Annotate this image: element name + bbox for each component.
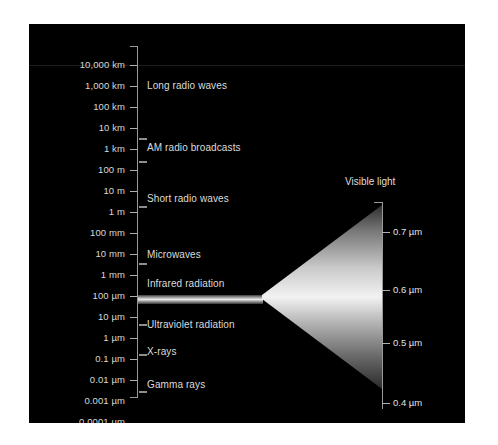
scale-tick [130,128,137,129]
scale-tick [130,275,137,276]
band-boundary-tick [139,206,147,208]
scale-label-0001um: 0.001 µm [29,396,125,406]
band-boundary-tick [139,138,147,140]
band-label-am-radio-broadcasts: AM radio broadcasts [147,143,241,153]
scale-label-1mm: 1 mm [29,270,125,280]
scale-tick [130,296,137,297]
scale-label-100um: 100 µm [29,291,125,301]
scale-tick [130,149,137,150]
scale-label-10m: 10 m [29,186,125,196]
visible-tick [382,403,390,404]
band-label-ultraviolet-radiation: Ultraviolet radiation [147,320,235,330]
visible-tick [382,343,390,344]
scale-tick [130,380,137,381]
band-boundary-tick [139,391,147,393]
scale-label-100m: 100 m [29,165,125,175]
band-label-microwaves: Microwaves [147,250,201,260]
scale-label-100mm: 100 mm [29,228,125,238]
scale-label-10mm: 10 mm [29,249,125,259]
scale-tick [130,233,137,234]
scale-tick [130,65,137,66]
visible-light-title: Visible light [345,177,395,187]
scale-label-1000km: 1,000 km [29,81,125,91]
scale-label-1m: 1 m [29,207,125,217]
scale-label-1km: 1 km [29,144,125,154]
scale-label-001um: 0.01 µm [29,375,125,385]
scale-tick [130,359,137,360]
visible-tick [382,232,390,233]
scale-label-10um: 10 µm [29,312,125,322]
scale-label-01um: 0.1 µm [29,354,125,364]
band-label-long-radio-waves: Long radio waves [147,81,227,91]
visible-light-fan [262,205,382,389]
band-label-infrared-radiation: Infrared radiation [147,279,224,289]
scale-tick [130,170,137,171]
wavelength-axis-line [137,46,138,397]
scale-tick [130,212,137,213]
scale-tick [130,338,137,339]
scale-label-1um: 1 µm [29,333,125,343]
band-label-x-rays: X-rays [147,347,177,357]
visible-light-beam [138,295,263,304]
band-boundary-tick [139,354,147,356]
visible-label-04um: 0.4 µm [393,398,422,408]
scale-tick [130,107,137,108]
scale-label-10km: 10 km [29,123,125,133]
scale-tick [130,317,137,318]
spectrum-panel: 10,000 km 1,000 km 100 km 10 km 1 km 100… [29,24,465,423]
band-boundary-tick [139,161,147,163]
visible-label-06um: 0.6 µm [393,285,422,295]
band-label-gamma-rays: Gamma rays [147,380,205,390]
visible-label-07um: 0.7 µm [393,227,422,237]
axis-top-cap [130,46,138,47]
scale-label-100km: 100 km [29,102,125,112]
scale-label-00001um: 0.0001 µm [29,417,125,423]
band-boundary-tick [139,324,147,326]
band-label-short-radio-waves: Short radio waves [147,194,229,204]
band-boundary-tick [139,263,147,265]
visible-label-05um: 0.5 µm [393,338,422,348]
scale-tick [130,191,137,192]
scale-tick [130,254,137,255]
visible-tick [382,290,390,291]
visible-light-axis-cap [374,202,383,203]
scale-tick [130,86,137,87]
visible-light-axis-line [382,202,383,409]
axis-bottom-cap [130,397,138,398]
scale-label-10000km: 10,000 km [29,60,125,70]
